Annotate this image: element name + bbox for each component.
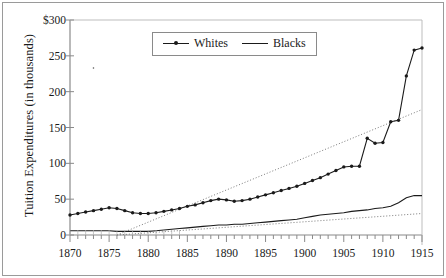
data-point-marker xyxy=(326,172,329,175)
data-point-marker xyxy=(342,165,345,168)
data-point-marker xyxy=(256,195,259,198)
data-point-marker xyxy=(162,210,165,213)
data-point-marker xyxy=(139,212,142,215)
data-point-marker xyxy=(264,193,267,196)
stray-mark xyxy=(93,67,95,69)
data-point-marker xyxy=(84,210,87,213)
data-point-marker xyxy=(217,197,220,200)
data-point-marker xyxy=(76,212,79,215)
data-point-marker xyxy=(68,213,71,216)
chart-legend: Whites Blacks xyxy=(152,32,317,56)
data-point-marker xyxy=(115,207,118,210)
data-point-marker xyxy=(92,209,95,212)
legend-marker-line-with-dot-icon xyxy=(163,39,189,48)
data-point-marker xyxy=(280,189,283,192)
data-point-marker xyxy=(272,191,275,194)
data-point-marker xyxy=(319,176,322,179)
legend-label: Whites xyxy=(194,36,228,51)
data-point-marker xyxy=(405,74,408,77)
data-point-marker xyxy=(295,185,298,188)
data-point-marker xyxy=(107,206,110,209)
data-point-marker xyxy=(358,165,361,168)
data-point-marker xyxy=(147,212,150,215)
data-point-marker xyxy=(170,208,173,211)
data-point-marker xyxy=(225,198,228,201)
data-point-marker xyxy=(240,199,243,202)
legend-marker-line-icon xyxy=(242,39,268,48)
data-point-marker xyxy=(193,203,196,206)
trend-line xyxy=(117,110,422,235)
data-point-marker xyxy=(420,46,423,49)
data-point-marker xyxy=(381,141,384,144)
data-point-marker xyxy=(186,205,189,208)
data-point-marker xyxy=(154,211,157,214)
data-point-marker xyxy=(100,208,103,211)
data-point-marker xyxy=(334,169,337,172)
data-point-marker xyxy=(287,187,290,190)
data-point-marker xyxy=(178,207,181,210)
legend-item-whites: Whites xyxy=(163,36,228,51)
legend-item-blacks: Blacks xyxy=(242,36,306,51)
trend-line xyxy=(117,214,422,236)
data-point-marker xyxy=(412,48,415,51)
data-point-marker xyxy=(373,142,376,145)
data-point-marker xyxy=(350,165,353,168)
legend-label: Blacks xyxy=(273,36,306,51)
data-point-marker xyxy=(389,120,392,123)
chart-figure: Tuition Expenditures (in thousands) $300… xyxy=(0,0,446,278)
data-point-marker xyxy=(366,137,369,140)
data-point-marker xyxy=(131,211,134,214)
data-point-marker xyxy=(209,199,212,202)
data-series-line xyxy=(70,48,422,215)
data-point-marker xyxy=(123,209,126,212)
data-point-marker xyxy=(311,179,314,182)
data-point-marker xyxy=(248,197,251,200)
data-point-marker xyxy=(397,119,400,122)
data-point-marker xyxy=(233,200,236,203)
data-point-marker xyxy=(303,182,306,185)
data-point-marker xyxy=(201,201,204,204)
